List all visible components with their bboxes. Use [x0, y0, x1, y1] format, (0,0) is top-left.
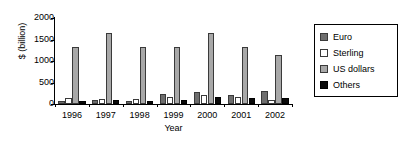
- bar-others-1999: [181, 100, 187, 104]
- legend-swatch-icon-others: [320, 81, 328, 89]
- bar-us-dollars-1999: [174, 47, 180, 104]
- x-tick-mark: [157, 104, 158, 107]
- x-tick-mark: [89, 104, 90, 107]
- legend-swatch-icon-us-dollars: [320, 65, 328, 73]
- legend-label-others: Others: [333, 80, 360, 90]
- bar-others-2000: [215, 97, 221, 104]
- bar-us-dollars-1998: [140, 47, 146, 104]
- bar-others-1998: [147, 101, 153, 104]
- x-tick-label-1997: 1997: [89, 110, 123, 121]
- bar-us-dollars-1996: [72, 47, 78, 104]
- bar-euro-1998: [126, 101, 132, 104]
- x-tick-label-1996: 1996: [55, 110, 89, 121]
- bar-us-dollars-2001: [242, 47, 248, 104]
- legend-item-others: Others: [320, 77, 397, 93]
- bar-us-dollars-2002: [275, 55, 281, 104]
- bar-sterling-1997: [99, 99, 105, 104]
- x-tick-mark: [55, 104, 56, 107]
- x-axis-line: [54, 104, 293, 105]
- x-tick-mark: [258, 104, 259, 107]
- bar-euro-2000: [194, 92, 200, 104]
- x-axis-title: Year: [54, 123, 293, 133]
- bar-sterling-2001: [235, 97, 241, 104]
- x-tick-label-1998: 1998: [123, 110, 157, 121]
- legend-item-euro: Euro: [320, 29, 397, 45]
- x-tick-label-2000: 2000: [190, 110, 224, 121]
- bar-others-2002: [282, 98, 288, 104]
- legend-label-sterling: Sterling: [333, 48, 364, 58]
- x-tick-mark: [123, 104, 124, 107]
- x-tick-mark: [190, 104, 191, 107]
- bar-euro-2001: [228, 95, 234, 104]
- bar-chart-figure: $ (billion) Year 0500100015002000 199619…: [0, 0, 404, 144]
- bar-euro-2002: [261, 91, 267, 104]
- bar-others-2001: [249, 98, 255, 104]
- legend-swatch-icon-euro: [320, 33, 328, 41]
- legend-label-us-dollars: US dollars: [333, 64, 375, 74]
- legend-item-us-dollars: US dollars: [320, 61, 397, 77]
- legend-swatch-icon-sterling: [320, 49, 328, 57]
- bar-sterling-1998: [133, 99, 139, 104]
- bar-sterling-1996: [65, 98, 71, 104]
- x-tick-label-2001: 2001: [224, 110, 258, 121]
- bar-euro-1996: [58, 101, 64, 104]
- bar-others-1997: [113, 100, 119, 104]
- legend-item-sterling: Sterling: [320, 45, 397, 61]
- x-tick-label-2002: 2002: [258, 110, 292, 121]
- bar-sterling-2000: [201, 95, 207, 104]
- y-axis-title: $ (billion): [17, 3, 27, 79]
- x-tick-mark: [292, 104, 293, 107]
- chart-legend: Euro Sterling US dollars Others: [314, 24, 398, 97]
- legend-label-euro: Euro: [333, 32, 352, 42]
- plot-area: [55, 18, 292, 104]
- bar-us-dollars-2000: [208, 33, 214, 104]
- bar-us-dollars-1997: [106, 33, 112, 104]
- bar-sterling-2002: [268, 100, 274, 105]
- bar-euro-1997: [92, 100, 98, 104]
- x-tick-mark: [224, 104, 225, 107]
- x-tick-label-1999: 1999: [157, 110, 191, 121]
- bar-others-1996: [79, 101, 85, 104]
- bar-euro-1999: [160, 94, 166, 104]
- bar-sterling-1999: [167, 97, 173, 104]
